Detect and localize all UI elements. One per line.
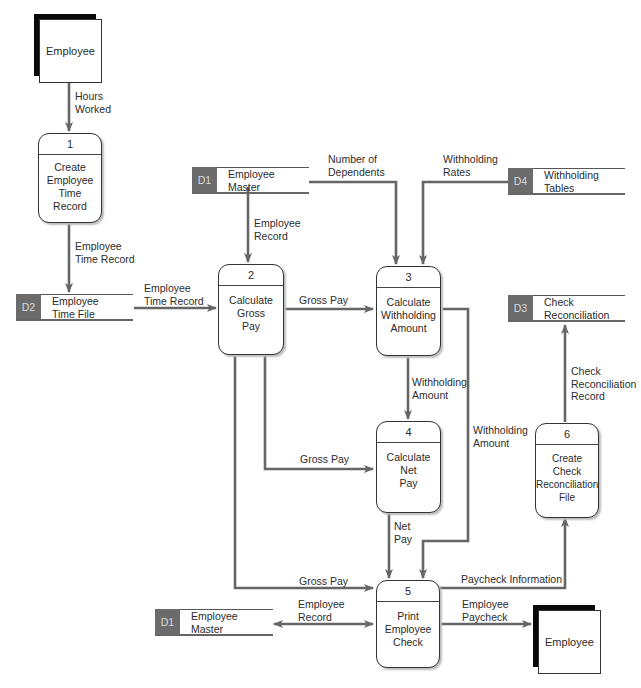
entity-label: Employee <box>39 19 102 83</box>
external-entity-employee-destination: Employee <box>533 605 601 675</box>
process-name: Calculate Gross Pay <box>219 286 283 333</box>
process-number: 6 <box>536 424 598 445</box>
store-id: D3 <box>508 295 533 321</box>
process-number: 3 <box>377 267 440 288</box>
flow-label-net-pay: Net Pay <box>394 520 412 545</box>
data-store-d2: D2 Employee Time File <box>16 294 133 320</box>
store-name: Check Reconciliation <box>544 296 609 321</box>
process-name: Create Check Reconciliation File <box>536 445 598 504</box>
store-name: Withholding Tables <box>544 169 599 194</box>
flow-label-paycheck-information: Paycheck Information <box>461 573 562 586</box>
flow-label-gross-pay-2: Gross Pay <box>300 453 349 466</box>
flow-label-employee-record-2: Employee Record <box>298 598 345 623</box>
flow-label-check-reconciliation-record: Check Reconciliation Record <box>571 365 636 403</box>
process-number: 5 <box>377 581 439 602</box>
flow-label-employee-time-record-1: Employee Time Record <box>75 240 135 265</box>
process-number: 4 <box>377 422 440 443</box>
process-name: Calculate Withholding Amount <box>377 288 440 335</box>
data-store-d1-bottom: D1 Employee Master <box>155 609 273 635</box>
flow-label-hours-worked: Hours Worked <box>75 90 111 115</box>
flow-label-employee-paycheck: Employee Paycheck <box>462 598 509 623</box>
process-name: Create Employee Time Record <box>39 155 101 213</box>
store-name: Employee Time File <box>52 295 99 320</box>
store-name: Employee Master <box>228 168 275 193</box>
flow-label-number-of-dependents: Number of Dependents <box>328 153 385 178</box>
flow-label-withholding-rates: Withholding Rates <box>443 153 498 178</box>
process-3: 3 Calculate Withholding Amount <box>376 266 441 356</box>
data-store-d1-top: D1 Employee Master <box>192 167 309 193</box>
store-id: D1 <box>192 167 217 193</box>
store-id: D4 <box>508 168 533 194</box>
process-number: 2 <box>219 265 283 286</box>
process-4: 4 Calculate Net Pay <box>376 421 441 513</box>
external-entity-employee-source: Employee <box>34 14 102 84</box>
flow-label-gross-pay-1: Gross Pay <box>299 294 348 307</box>
flow-label-employee-record-1: Employee Record <box>254 217 301 242</box>
process-number: 1 <box>39 134 101 155</box>
process-name: Calculate Net Pay <box>377 443 440 490</box>
store-name: Employee Master <box>191 610 238 635</box>
store-id: D2 <box>16 294 41 320</box>
data-store-d3: D3 Check Reconciliation <box>508 295 625 321</box>
process-6: 6 Create Check Reconciliation File <box>535 423 599 518</box>
store-id: D1 <box>155 609 180 635</box>
entity-label: Employee <box>538 610 601 674</box>
flow-label-gross-pay-3: Gross Pay <box>299 575 348 588</box>
data-store-d4: D4 Withholding Tables <box>508 168 625 194</box>
process-5: 5 Print Employee Check <box>376 580 440 668</box>
process-1: 1 Create Employee Time Record <box>38 133 102 223</box>
flow-label-withholding-amount-1: Withholding Amount <box>412 376 467 401</box>
flow-label-withholding-amount-2: Withholding Amount <box>473 424 528 449</box>
process-2: 2 Calculate Gross Pay <box>218 264 284 355</box>
flow-label-employee-time-record-2: Employee Time Record <box>144 282 204 307</box>
process-name: Print Employee Check <box>377 602 439 649</box>
